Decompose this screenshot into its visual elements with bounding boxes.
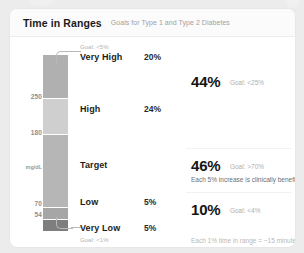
range-row-high[interactable]: High 24% [80,104,185,118]
range-label-target: Target [80,160,107,170]
bracket-very-high [56,51,73,63]
bar-segment-high[interactable] [43,99,68,134]
range-row-very-low[interactable]: Very Low 5% [80,223,185,237]
range-goal-very-high: Goal: <5% [80,44,109,50]
stat-above-range[interactable]: 44% Goal: <25% [191,73,264,91]
stat-value-below-range: 10% [191,201,220,218]
page-background: Time in Ranges Goals for Type 1 and Type… [0,0,304,253]
time-in-ranges-card: Time in Ranges Goals for Type 1 and Type… [10,9,295,247]
stat-divider-1 [186,148,292,149]
range-percent-very-high: 20% [144,52,161,62]
range-percent-very-low: 5% [144,223,156,233]
range-percent-high: 24% [144,104,161,114]
range-label-high: High [80,104,100,114]
stat-goal-above-range: Goal: <25% [230,79,264,86]
stat-goal-target-range: Goal: >70% [230,163,264,170]
card-header: Time in Ranges Goals for Type 1 and Type… [10,9,295,36]
range-label-low: Low [80,197,98,207]
range-percent-low: 5% [144,197,156,207]
stat-note-target-range: Each 5% increase is clinically beneficia… [191,176,295,183]
range-goal-very-low: Goal: <1% [80,237,109,243]
stat-value-above-range: 44% [191,73,220,90]
range-row-low[interactable]: Low 5% [80,197,185,211]
range-row-target[interactable]: Target [80,160,185,174]
axis-labels: 250 180 mg/dL 70 54 [18,36,42,247]
range-label-very-high: Very High [80,52,122,62]
axis-tick-54: 54 [18,211,42,218]
chart-footnote: Each 1% time in range = ~15 minutes [191,237,295,244]
range-row-very-high[interactable]: Very High 20% [80,52,185,66]
stat-below-range[interactable]: 10% Goal: <4% [191,201,260,219]
axis-unit-label: mg/dL [26,164,43,170]
axis-tick-70: 70 [18,200,42,207]
stat-goal-below-range: Goal: <4% [230,207,261,214]
axis-tick-180: 180 [18,129,42,136]
bar-segment-target[interactable] [43,135,68,207]
stat-divider-2 [186,192,292,193]
stat-target-range[interactable]: 46% Goal: >70% [191,157,264,175]
stacked-bar [43,55,68,221]
stat-value-target-range: 46% [191,157,220,174]
axis-tick-250: 250 [18,93,42,100]
page-title: Time in Ranges [23,17,102,29]
range-label-very-low: Very Low [80,223,120,233]
time-in-ranges-chart: 250 180 mg/dL 70 54 [10,36,295,247]
scan-artifact-left [28,0,54,6]
card-subtitle: Goals for Type 1 and Type 2 Diabetes [111,19,230,26]
scan-artifact-right [286,0,300,8]
